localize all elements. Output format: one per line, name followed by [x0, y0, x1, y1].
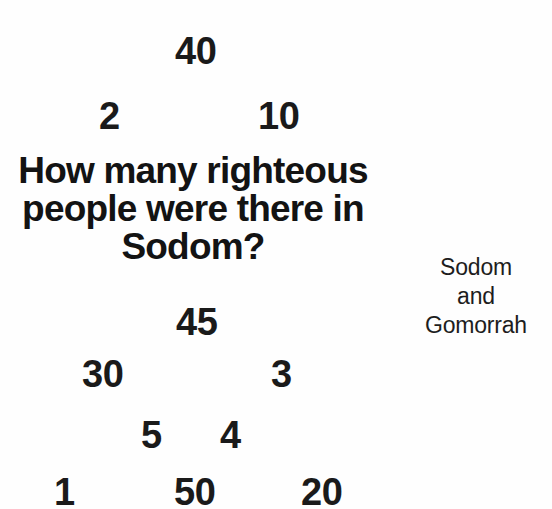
answer-option-1[interactable]: 1 — [54, 473, 75, 509]
answer-option-45[interactable]: 45 — [176, 303, 217, 341]
answer-option-3[interactable]: 3 — [271, 355, 292, 393]
answer-option-30[interactable]: 30 — [82, 355, 123, 393]
answer-option-50[interactable]: 50 — [174, 473, 215, 509]
answer-option-10[interactable]: 10 — [258, 97, 299, 135]
question-line-2: people were there in — [0, 190, 386, 228]
topic-block: Sodom and Gomorrah — [400, 253, 552, 340]
answer-option-4[interactable]: 4 — [220, 416, 241, 454]
topic-line-2: and — [400, 282, 552, 311]
question-line-1: How many righteous — [0, 152, 386, 190]
question-line-3: Sodom? — [0, 228, 386, 266]
answer-option-40[interactable]: 40 — [175, 32, 216, 70]
answer-option-2[interactable]: 2 — [99, 97, 120, 135]
question-block: How many righteous people were there in … — [0, 152, 386, 266]
topic-line-3: Gomorrah — [400, 311, 552, 340]
answer-option-5[interactable]: 5 — [141, 416, 162, 454]
topic-line-1: Sodom — [400, 253, 552, 282]
answer-option-20[interactable]: 20 — [301, 473, 342, 509]
quiz-canvas: 40 2 10 How many righteous people were t… — [0, 0, 552, 509]
